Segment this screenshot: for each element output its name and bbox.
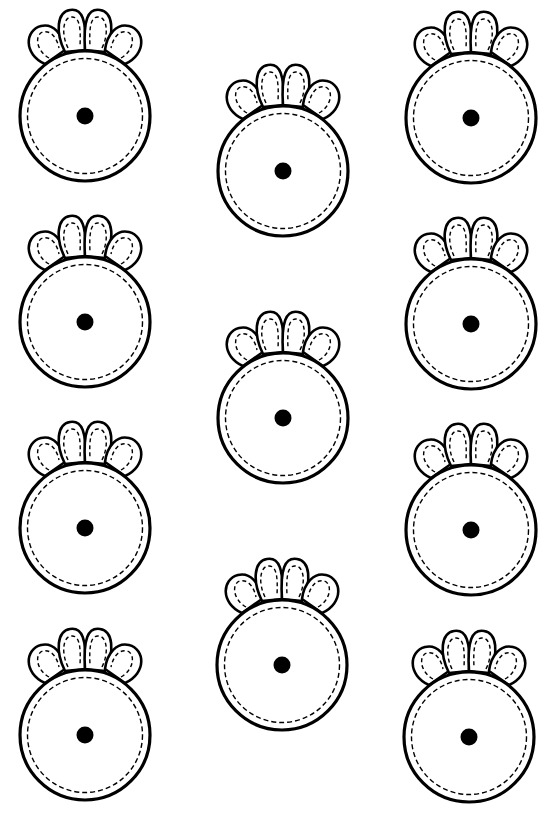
coloring-page [0,0,554,818]
shapes-layer [20,10,536,802]
flower-circle-middle-6 [217,559,347,730]
flower-circle-right-9 [406,424,536,595]
flower-circle-right-8 [406,218,536,389]
flower-circle-middle-5 [218,312,348,483]
flower-circle-left-3 [20,629,150,800]
flower-circle-left-0 [20,10,150,181]
flower-circle-right-10 [404,631,534,802]
flower-circle-right-7 [406,12,536,183]
flower-circle-left-1 [20,216,150,387]
flower-circle-left-2 [20,422,150,593]
flower-circle-middle-4 [218,65,348,236]
